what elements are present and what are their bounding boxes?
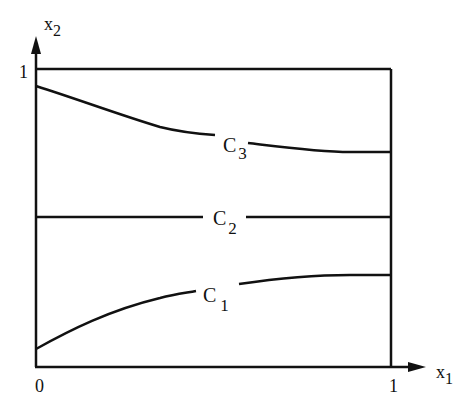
- y-axis-arrow-icon: [31, 36, 41, 54]
- x-tick-1: 1: [389, 376, 398, 396]
- x-axis-arrow-icon: [408, 362, 426, 372]
- curve-c1-left: [36, 291, 196, 349]
- curve-c3-right: [248, 143, 391, 152]
- curve-label-c3: C3: [223, 134, 247, 163]
- curve-label-c1: C1: [203, 284, 229, 315]
- y-tick-1: 1: [19, 62, 28, 82]
- curve-label-c2: C2: [213, 207, 237, 238]
- x-tick-0: 0: [35, 376, 44, 396]
- curve-c3-left: [36, 86, 215, 135]
- x-axis-label: x1: [436, 362, 453, 387]
- diagram: x2 x1 1 0 1 C3 C2 C1: [0, 0, 473, 408]
- y-axis-label: x2: [44, 14, 61, 39]
- curve-c1-right: [239, 275, 391, 284]
